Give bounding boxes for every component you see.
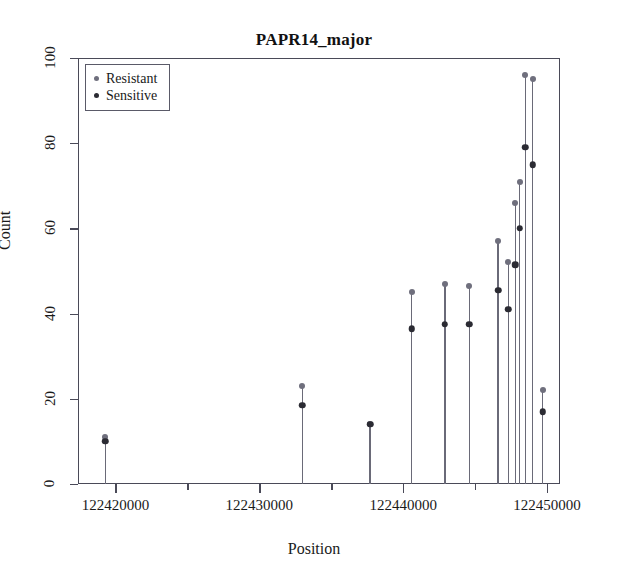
y-tick-mark bbox=[70, 314, 78, 315]
stem-line bbox=[508, 262, 509, 484]
x-tick-mark bbox=[403, 484, 404, 493]
x-tick-mark bbox=[331, 484, 332, 490]
chart-figure: PAPR14_major Count Position 020406080100… bbox=[0, 0, 628, 580]
data-point-resistant bbox=[409, 289, 415, 295]
x-tick-mark bbox=[187, 484, 188, 490]
data-point-sensitive bbox=[539, 408, 546, 415]
legend-dot-icon bbox=[94, 76, 99, 81]
data-point-sensitive bbox=[409, 325, 416, 332]
y-tick-mark bbox=[70, 484, 78, 485]
y-tick-label: 80 bbox=[34, 134, 66, 151]
data-point-resistant bbox=[505, 259, 511, 265]
data-point-sensitive bbox=[529, 161, 536, 168]
chart-legend: ResistantSensitive bbox=[85, 64, 170, 111]
x-tick-label: 122430000 bbox=[226, 497, 294, 514]
legend-dot-icon bbox=[94, 93, 99, 98]
x-tick-label: 122420000 bbox=[82, 497, 150, 514]
stem-line bbox=[411, 292, 412, 484]
data-point-sensitive bbox=[495, 287, 502, 294]
data-point-resistant bbox=[522, 72, 528, 78]
x-tick-mark bbox=[475, 484, 476, 490]
stem-line bbox=[515, 203, 516, 484]
x-axis-label: Position bbox=[0, 540, 628, 558]
stem-line bbox=[525, 75, 526, 484]
y-tick-mark bbox=[70, 399, 78, 400]
data-point-resistant bbox=[540, 387, 546, 393]
data-point-sensitive bbox=[442, 321, 449, 328]
y-tick-mark bbox=[70, 143, 78, 144]
plot-area bbox=[78, 58, 560, 484]
data-point-sensitive bbox=[512, 261, 519, 268]
data-point-resistant bbox=[442, 281, 448, 287]
x-tick-mark bbox=[259, 484, 260, 493]
legend-item-sensitive: Sensitive bbox=[94, 87, 157, 104]
x-tick-mark bbox=[547, 484, 548, 493]
data-point-sensitive bbox=[505, 306, 512, 313]
x-tick-label: 122440000 bbox=[369, 497, 437, 514]
y-tick-label: 40 bbox=[34, 305, 66, 322]
data-point-resistant bbox=[299, 383, 305, 389]
data-point-sensitive bbox=[102, 438, 109, 445]
data-point-sensitive bbox=[466, 321, 473, 328]
y-tick-label: 100 bbox=[34, 49, 66, 66]
legend-item-resistant: Resistant bbox=[94, 70, 157, 87]
stem-line bbox=[532, 79, 533, 484]
stem-line bbox=[302, 386, 303, 484]
y-axis-label: Count bbox=[0, 211, 14, 250]
y-tick-mark bbox=[70, 58, 78, 59]
data-point-resistant bbox=[466, 283, 472, 289]
data-point-resistant bbox=[517, 179, 523, 185]
stem-line bbox=[542, 390, 543, 484]
data-point-resistant bbox=[512, 200, 518, 206]
stem-line bbox=[497, 241, 498, 484]
data-point-sensitive bbox=[299, 402, 306, 409]
stem-line bbox=[369, 424, 370, 484]
data-point-sensitive bbox=[367, 421, 374, 428]
stem-line bbox=[469, 286, 470, 484]
y-tick-mark bbox=[70, 228, 78, 229]
x-tick-label: 122450000 bbox=[513, 497, 581, 514]
chart-title: PAPR14_major bbox=[0, 30, 628, 50]
y-tick-label: 0 bbox=[34, 475, 66, 492]
data-point-sensitive bbox=[522, 144, 529, 151]
data-point-resistant bbox=[495, 238, 501, 244]
y-tick-label: 60 bbox=[34, 219, 66, 236]
x-tick-mark bbox=[115, 484, 116, 493]
y-tick-label: 20 bbox=[34, 390, 66, 407]
legend-label: Sensitive bbox=[106, 89, 157, 103]
data-point-sensitive bbox=[516, 225, 523, 232]
legend-label: Resistant bbox=[106, 72, 157, 86]
data-point-resistant bbox=[530, 76, 536, 82]
stem-line bbox=[444, 284, 445, 484]
